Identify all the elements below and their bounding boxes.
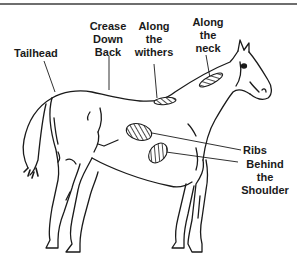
tailhead-pointer	[44, 61, 55, 92]
label-behind-shoulder: Behind the Shoulder	[234, 158, 296, 197]
horse-outline	[23, 40, 271, 252]
label-along-neck: Along the neck	[180, 16, 236, 55]
ribs-area	[124, 121, 153, 143]
shoulder-pointer	[166, 152, 238, 162]
label-tailhead: Tailhead	[14, 47, 58, 60]
neck-pointer	[206, 55, 210, 78]
horse-diagram: Tailhead Crease Down Back Along the with…	[0, 0, 297, 267]
neck-area	[198, 70, 225, 89]
withers-pointer	[154, 64, 157, 98]
label-along-withers: Along the withers	[124, 20, 184, 59]
label-ribs: Ribs	[240, 144, 270, 157]
scoring-areas	[124, 70, 224, 166]
shoulder-area	[145, 139, 171, 166]
